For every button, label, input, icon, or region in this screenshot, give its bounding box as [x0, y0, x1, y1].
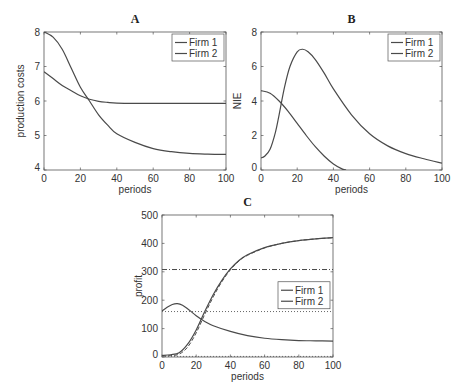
- y-tick-label: 400: [141, 238, 158, 249]
- x-tick-label: 100: [325, 360, 342, 371]
- y-tick-label: 8: [34, 27, 40, 38]
- series-line-firm-2: [162, 304, 333, 342]
- chart-title: C: [243, 195, 252, 209]
- chart-panel-a: A02040608010045678periodsproduction cost…: [15, 12, 235, 195]
- x-tick-label: 80: [400, 173, 412, 184]
- x-tick-label: 40: [328, 173, 340, 184]
- chart-panel-c: C0204060801000100200300400500periodsprof…: [133, 195, 342, 382]
- x-tick-label: 40: [225, 360, 237, 371]
- x-tick-label: 80: [293, 360, 305, 371]
- legend-label: Firm 1: [295, 285, 324, 296]
- legend-label: Firm 1: [189, 37, 218, 48]
- y-tick-label: 4: [251, 96, 257, 107]
- y-tick-label: 0: [251, 162, 257, 173]
- x-tick-label: 0: [258, 173, 264, 184]
- y-tick-label: 2: [251, 130, 257, 141]
- y-tick-label: 100: [141, 323, 158, 334]
- x-axis-label: periods: [335, 184, 368, 195]
- y-tick-label: 500: [141, 210, 158, 221]
- x-tick-label: 20: [292, 173, 304, 184]
- y-tick-label: 5: [34, 130, 40, 141]
- y-tick-label: 7: [34, 61, 40, 72]
- x-tick-label: 80: [184, 173, 196, 184]
- chart-title: A: [131, 12, 140, 26]
- figure: A02040608010045678periodsproduction cost…: [0, 0, 464, 387]
- legend-label: Firm 2: [405, 48, 434, 59]
- x-tick-label: 20: [75, 173, 87, 184]
- x-axis-label: periods: [231, 371, 264, 382]
- x-tick-label: 0: [159, 360, 165, 371]
- y-tick-label: 8: [251, 27, 257, 38]
- y-tick-label: 4: [34, 162, 40, 173]
- series-line-firm-2: [261, 91, 346, 170]
- x-tick-label: 0: [41, 173, 47, 184]
- y-axis-label: NIE: [232, 92, 243, 109]
- legend-label: Firm 2: [295, 296, 324, 307]
- legend: Firm 1Firm 2: [278, 282, 330, 309]
- x-tick-label: 60: [259, 360, 271, 371]
- chart-title: B: [347, 12, 355, 26]
- y-axis-label: production costs: [15, 65, 26, 138]
- series-line-firm-1: [261, 49, 442, 163]
- legend: Firm 1Firm 2: [172, 34, 224, 61]
- legend-label: Firm 1: [405, 37, 434, 48]
- x-tick-label: 60: [364, 173, 376, 184]
- series-line-firm-2: [44, 72, 226, 104]
- y-tick-label: 6: [34, 96, 40, 107]
- y-tick-label: 6: [251, 61, 257, 72]
- legend-label: Firm 2: [189, 48, 218, 59]
- x-tick-label: 40: [111, 173, 123, 184]
- x-tick-label: 100: [434, 173, 451, 184]
- y-tick-label: 0: [152, 349, 158, 360]
- x-axis-label: periods: [119, 184, 152, 195]
- legend: Firm 1Firm 2: [388, 34, 440, 61]
- x-tick-label: 100: [218, 173, 235, 184]
- chart-panel-b: B02040608010002468periodsNIEFirm 1Firm 2: [232, 12, 451, 195]
- x-tick-label: 20: [191, 360, 203, 371]
- x-tick-label: 60: [148, 173, 160, 184]
- y-axis-label: profit: [133, 275, 144, 297]
